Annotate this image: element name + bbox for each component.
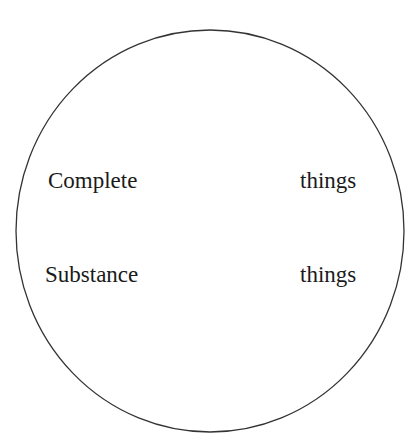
label-substance: Substance: [45, 262, 138, 287]
diagram-canvas: Complete things Substance things: [0, 0, 420, 443]
label-complete: Complete: [48, 168, 137, 193]
label-things-top: things: [300, 168, 356, 193]
label-things-bottom: things: [300, 262, 356, 287]
enclosing-ellipse: [16, 30, 404, 432]
